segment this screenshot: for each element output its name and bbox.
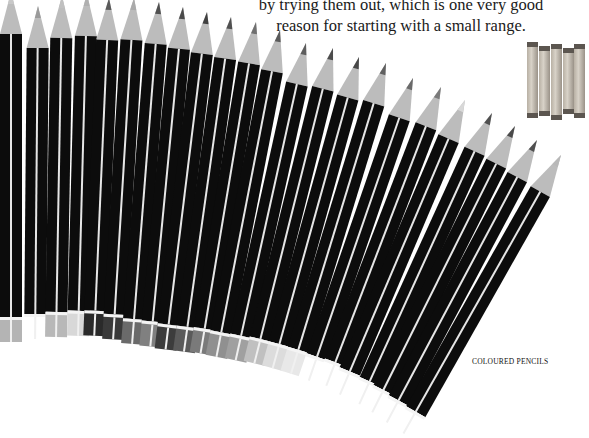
pencil-tip	[168, 6, 194, 50]
chalk-sticks	[527, 42, 587, 122]
pencil-tip	[96, 0, 120, 40]
chalk-stick	[551, 44, 562, 120]
chalk-stick	[527, 42, 538, 118]
pencil-body	[0, 34, 22, 317]
pencil-tip	[214, 15, 242, 60]
chalk-stick	[539, 46, 550, 116]
caption-text: by trying them out, which is one very go…	[251, 0, 551, 36]
pencil-tip	[120, 0, 145, 41]
pencil-tip	[191, 11, 218, 55]
pencil-tip	[75, 0, 98, 36]
caption-line-1: by trying them out, which is one very go…	[251, 0, 551, 15]
section-label: COLOURED PENCILS	[472, 357, 548, 366]
pencil-tip	[363, 60, 396, 107]
caption-line-2: reason for starting with a small range.	[251, 15, 551, 36]
pencil-tip	[50, 0, 73, 38]
chalk-stick	[574, 44, 585, 118]
chalk-stick	[563, 48, 574, 114]
pencil-tip	[145, 1, 170, 45]
pencil-end	[0, 317, 22, 342]
pencil-tip	[27, 6, 49, 48]
pencil-tip	[0, 0, 22, 34]
pencil-tip	[286, 41, 317, 87]
pencil	[0, 0, 22, 342]
pencil-end	[24, 314, 46, 339]
pencil-body	[24, 48, 48, 314]
pencil-end	[45, 312, 67, 337]
